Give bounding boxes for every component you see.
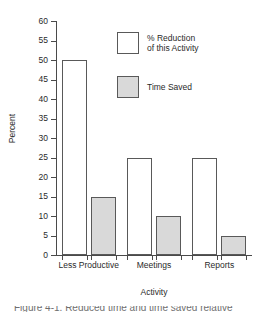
- y-tick-label: 15: [0, 192, 48, 201]
- y-tick-mark: [51, 177, 57, 178]
- x-category-label: Meetings: [121, 261, 186, 270]
- legend-label: % Reduction of this Activity: [147, 32, 199, 53]
- y-tick-mark: [51, 99, 57, 100]
- bar: [62, 60, 87, 255]
- bar: [221, 236, 246, 256]
- legend-entry: Time Saved: [117, 76, 192, 98]
- x-axis-line: [56, 255, 252, 256]
- y-tick-label: 5: [0, 231, 48, 240]
- y-tick-label: 50: [0, 56, 48, 65]
- y-tick-mark: [51, 80, 57, 81]
- y-tick-label: 45: [0, 75, 48, 84]
- bar: [192, 158, 217, 256]
- bar-chart: 051015202530354045505560 Less Productive…: [0, 0, 264, 312]
- figure-caption-text: Figure 4-1. Reduced time and time saved …: [14, 306, 232, 312]
- y-tick-label: 10: [0, 212, 48, 221]
- y-tick-mark: [51, 60, 57, 61]
- y-tick-label: 60: [0, 17, 48, 26]
- y-tick-mark: [51, 197, 57, 198]
- y-tick-mark: [51, 21, 57, 22]
- x-tick-mark: [246, 255, 247, 260]
- y-tick-mark: [51, 138, 57, 139]
- x-tick-mark: [192, 255, 193, 260]
- y-tick-mark: [51, 158, 57, 159]
- legend-entry: % Reduction of this Activity: [117, 32, 199, 54]
- x-tick-mark: [181, 255, 182, 260]
- x-tick-mark: [127, 255, 128, 260]
- y-tick-mark: [51, 255, 57, 256]
- y-tick-mark: [51, 216, 57, 217]
- y-axis-title: Percent: [8, 99, 17, 159]
- y-tick-mark: [51, 119, 57, 120]
- y-tick-mark: [51, 236, 57, 237]
- bar: [127, 158, 152, 256]
- figure-caption-cropped: Figure 4-1. Reduced time and time saved …: [0, 306, 264, 312]
- legend-label: Time Saved: [147, 76, 192, 92]
- y-tick-mark: [51, 41, 57, 42]
- y-tick-label: 55: [0, 36, 48, 45]
- x-axis-title: Activity: [56, 288, 252, 297]
- bar: [91, 197, 116, 256]
- x-category-label: Less Productive: [56, 261, 121, 270]
- bar: [156, 216, 181, 255]
- y-tick-label: 20: [0, 173, 48, 182]
- x-category-label: Reports: [187, 261, 252, 270]
- y-tick-label: 0: [0, 251, 48, 260]
- legend-swatch: [117, 76, 139, 98]
- legend-swatch: [117, 32, 139, 54]
